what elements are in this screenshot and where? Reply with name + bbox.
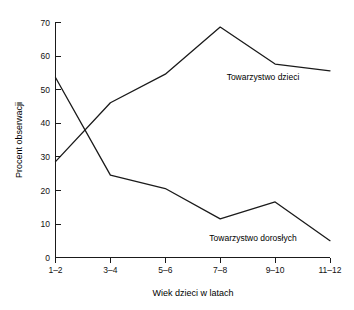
y-axis-title: Procent obserwacji: [14, 102, 24, 178]
x-tick-label-3-4: 3–4: [103, 265, 117, 275]
x-tick-label-5-6: 5–6: [158, 265, 172, 275]
chart-background: [0, 0, 354, 310]
series-annotation-children: Towarzystwo dzieci: [227, 72, 300, 82]
line-chart: 70 60 50 40 30 20 10 0 1–2 3–4 5–6 7–8 9…: [0, 0, 354, 310]
chart-container: 70 60 50 40 30 20 10 0 1–2 3–4 5–6 7–8 9…: [0, 0, 354, 310]
x-tick-label-7-8: 7–8: [213, 265, 227, 275]
y-tick-label-0: 0: [45, 253, 50, 263]
y-tick-label-60: 60: [41, 51, 51, 61]
x-tick-label-1-2: 1–2: [48, 265, 62, 275]
y-tick-label-10: 10: [41, 219, 51, 229]
y-tick-label-30: 30: [41, 152, 51, 162]
x-tick-label-9-10: 9–10: [266, 265, 285, 275]
y-tick-label-70: 70: [41, 18, 51, 28]
series-annotation-adults: Towarzystwo dorosłych: [209, 233, 297, 243]
x-axis-title: Wiek dzieci w latach: [152, 288, 233, 298]
y-tick-label-50: 50: [41, 85, 51, 95]
y-tick-label-20: 20: [41, 186, 51, 196]
x-tick-label-11-12: 11–12: [318, 265, 341, 275]
y-tick-label-40: 40: [41, 118, 51, 128]
